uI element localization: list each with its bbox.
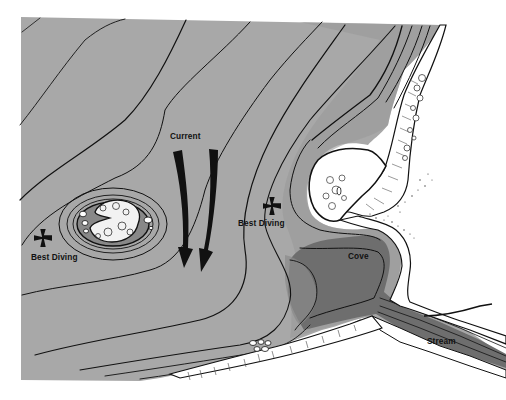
cove-label: Cove: [348, 251, 369, 261]
best-diving-label-west: Best Diving: [31, 252, 78, 262]
best-diving-label-east: Best Diving: [238, 218, 285, 228]
dive-marker-cross-icon: [34, 229, 52, 247]
dive-marker-cross-icon: [263, 197, 281, 215]
stream-label: Stream: [427, 336, 456, 346]
current-label: Current: [170, 131, 201, 141]
